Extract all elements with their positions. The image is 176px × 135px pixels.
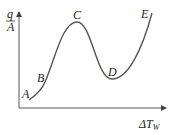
boiling-curve-diagram: q A A B C D E ΔTW <box>0 0 176 135</box>
point-e-label: E <box>140 7 149 21</box>
curve <box>29 13 152 100</box>
point-d-label: D <box>107 65 117 79</box>
y-label-denominator: A <box>6 20 15 34</box>
point-a-label: A <box>21 87 30 101</box>
point-b-label: B <box>37 71 45 85</box>
x-label: ΔTW <box>138 117 161 132</box>
point-c-label: C <box>73 8 82 22</box>
y-label-numerator: q <box>7 7 13 21</box>
